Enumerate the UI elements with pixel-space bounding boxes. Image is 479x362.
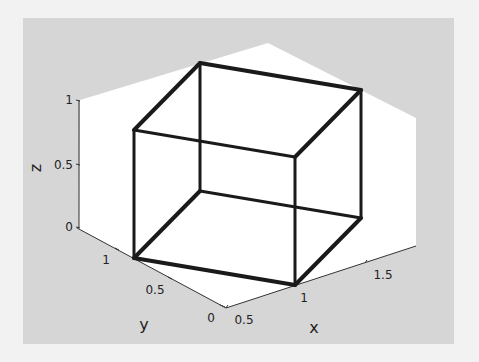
y-tick-label: 0 (207, 311, 215, 325)
y-tick-label: 0.5 (145, 283, 164, 297)
z-tick-label: 0.5 (54, 158, 73, 172)
x-tick-label: 1 (300, 291, 308, 305)
z-axis-label: z (26, 164, 45, 172)
z-tick-label: 1 (65, 93, 73, 107)
axes-background (77, 43, 416, 308)
x-axis-label: x (309, 318, 318, 337)
y-tick-label: 1 (102, 253, 110, 267)
y-axis-label: y (139, 315, 148, 334)
x-tick-label: 1.5 (373, 268, 392, 282)
z-tick-label: 0 (65, 220, 73, 234)
x-tick-label: 0.5 (234, 313, 253, 327)
plot-3d: 1 0.5 0 z 1 0.5 0 y 0.5 1 1.5 x (0, 0, 479, 362)
